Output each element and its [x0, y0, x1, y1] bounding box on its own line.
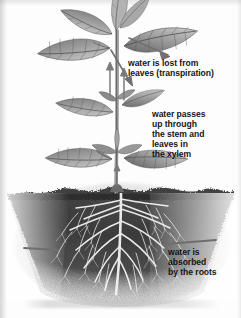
- leaf-top-left: [58, 0, 115, 44]
- xylem-arrow-left: [107, 62, 114, 96]
- leaflet-cluster-lower: [92, 128, 142, 154]
- leaf-upper-left: [37, 36, 110, 63]
- annotation-absorbed: water is absorbed by the roots: [168, 248, 241, 278]
- annotation-transpiration: water is lost from leaves (transpiration…: [128, 59, 240, 79]
- annotation-xylem: water passes up through the stem and lea…: [152, 110, 240, 160]
- plant-water-transport-figure: water is lost from leaves (transpiration…: [0, 0, 241, 318]
